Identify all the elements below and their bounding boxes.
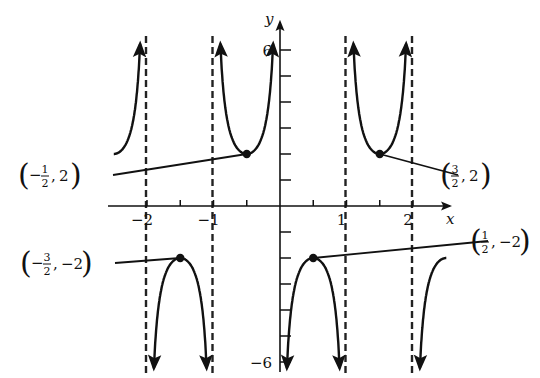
x-axis-label: x: [446, 210, 455, 228]
point-label: (12,−2): [470, 223, 531, 258]
frac-den: 2: [482, 243, 489, 256]
y-value: −2: [61, 255, 83, 273]
frac-den: 2: [42, 177, 49, 190]
point-marker: [376, 150, 384, 158]
curve-branch: [220, 44, 273, 154]
sign: −: [31, 254, 44, 272]
paren-close: ): [70, 157, 82, 192]
y-value: 2: [59, 167, 69, 185]
frac-num: 3: [44, 251, 51, 264]
curve-branch: [420, 258, 446, 368]
y-tick-label: 6: [262, 42, 272, 60]
paren-open: (: [20, 245, 32, 280]
curve-branch: [114, 44, 140, 154]
paren-close: ): [480, 157, 492, 192]
frac-den: 2: [44, 265, 51, 278]
y-axis-label: y: [264, 10, 274, 28]
point-marker: [309, 254, 317, 262]
x-tick-label: −1: [197, 211, 219, 229]
vertical-asymptotes: [146, 36, 412, 374]
y-tick-label: −6: [250, 354, 272, 372]
point-marker: [243, 150, 251, 158]
frac-den: 2: [452, 177, 459, 190]
paren-close: ): [81, 245, 93, 280]
paren-open: (: [440, 157, 452, 192]
curve-branch: [353, 44, 406, 154]
y-value: −2: [499, 233, 521, 251]
paren-open: (: [470, 223, 482, 258]
x-tick-label: −2: [131, 211, 153, 229]
csc-graph: (−12,2)(32,2)(−32,−2)(12,−2) −2−1126−6xy: [0, 0, 540, 378]
frac-num: 3: [452, 163, 459, 176]
x-tick-label: 1: [337, 211, 347, 229]
curve-branch: [154, 258, 207, 368]
point-marker: [176, 254, 184, 262]
frac-num: 1: [42, 163, 49, 176]
leader-line: [313, 241, 488, 258]
leader-line: [113, 154, 247, 175]
point-label: (−12,2): [18, 157, 82, 192]
frac-num: 1: [482, 229, 489, 242]
axis-labels: −2−1126−6xy: [131, 10, 455, 372]
comma: ,: [53, 255, 58, 273]
x-tick-label: 2: [403, 211, 413, 229]
comma: ,: [491, 233, 496, 251]
point-label: (−32,−2): [20, 245, 93, 280]
comma: ,: [51, 167, 56, 185]
sign: −: [29, 166, 42, 184]
point-label: (32,2): [440, 157, 492, 192]
paren-open: (: [18, 157, 30, 192]
paren-close: ): [519, 223, 531, 258]
axes: [108, 22, 450, 372]
comma: ,: [461, 167, 466, 185]
curve-branch: [287, 258, 340, 368]
y-value: 2: [469, 167, 479, 185]
